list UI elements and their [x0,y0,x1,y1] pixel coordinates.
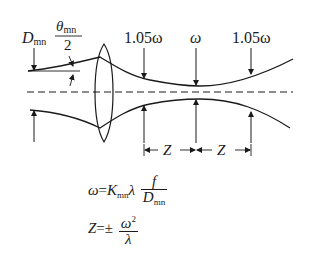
waist-formula: ω=Kmnλ f Dmn [88,174,167,210]
z-left-label: Z [163,142,172,158]
beam-diagram: Dmn θmn 2 1.05ω ω 1.05ω Z Z [0,0,317,256]
depth-fraction: ω2 λ [119,212,138,247]
half-angle-numerator: θmn [56,18,76,35]
beam-envelope-top [28,57,293,86]
spot-right-label: 1.05ω [232,29,271,46]
waist-fraction: f Dmn [141,174,167,210]
spot-left-label: 1.05ω [124,29,163,46]
aperture-label: Dmn [21,29,46,47]
waist-label: ω [190,29,201,46]
depth-formula: Z=± ω2 λ [88,212,138,247]
half-angle-denominator: 2 [64,37,72,53]
z-right-label: Z [217,142,226,158]
angle-arrow-bottom [70,75,73,86]
